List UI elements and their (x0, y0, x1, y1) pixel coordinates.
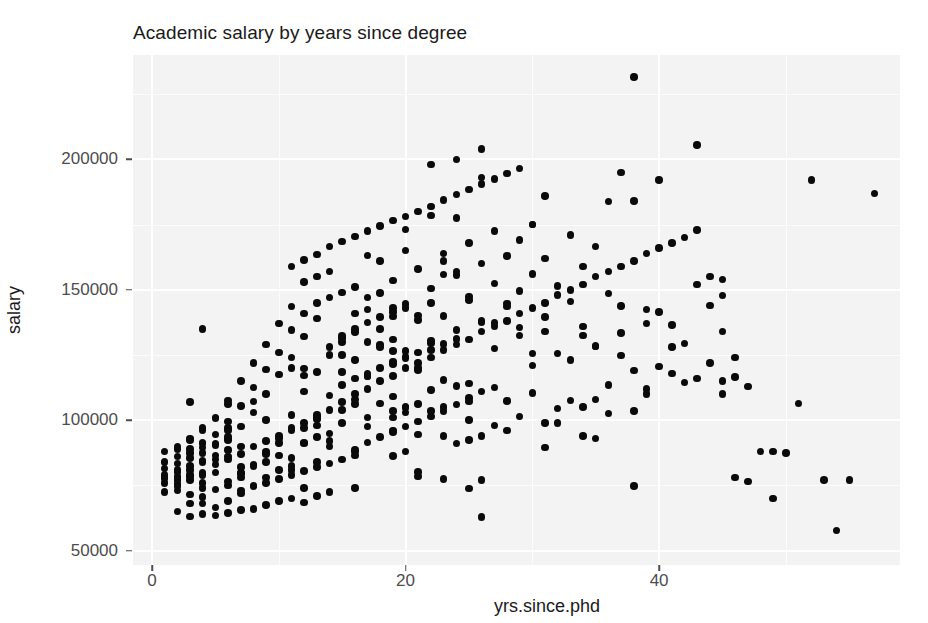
data-point (313, 433, 321, 441)
data-point (453, 214, 461, 222)
data-point (186, 491, 194, 499)
data-point (630, 482, 638, 490)
data-point (376, 313, 384, 321)
data-point (288, 471, 296, 479)
data-point (516, 332, 524, 340)
data-point (174, 460, 182, 468)
data-point (554, 405, 562, 413)
data-point (427, 413, 435, 421)
data-point (288, 462, 296, 470)
data-point (592, 342, 600, 350)
data-point (338, 406, 346, 414)
data-point (376, 364, 384, 372)
data-point (579, 332, 587, 340)
data-point (668, 321, 676, 329)
data-point (491, 345, 499, 353)
data-point (300, 467, 308, 475)
data-point (719, 292, 727, 300)
data-point (567, 356, 575, 364)
data-point (275, 475, 283, 483)
data-point (478, 513, 486, 521)
data-point (491, 227, 499, 235)
data-point (719, 328, 727, 336)
data-point (300, 372, 308, 380)
data-point (630, 197, 638, 205)
data-point (174, 443, 182, 451)
data-point (288, 354, 296, 362)
data-point (681, 340, 689, 348)
data-point (326, 488, 334, 496)
data-point (478, 432, 486, 440)
data-point (541, 299, 549, 307)
data-point (275, 452, 283, 460)
data-point (250, 443, 258, 451)
data-point (567, 397, 575, 405)
data-point (338, 368, 346, 376)
data-point (300, 333, 308, 341)
data-point (491, 280, 499, 288)
data-point (453, 156, 461, 164)
data-point (693, 141, 701, 149)
data-point (782, 449, 790, 457)
data-point (300, 499, 308, 507)
data-point (186, 398, 194, 406)
data-point (529, 362, 537, 370)
data-point (617, 329, 625, 337)
data-point (541, 328, 549, 336)
x-axis-title-text: yrs.since.phd (494, 596, 600, 616)
data-point (199, 449, 207, 457)
data-point (313, 492, 321, 500)
data-point (351, 233, 359, 241)
data-point (402, 247, 410, 255)
data-point (706, 273, 714, 281)
data-point (579, 432, 587, 440)
data-point (427, 337, 435, 345)
data-point (389, 277, 397, 285)
data-point (186, 513, 194, 521)
y-axis-title: salary (4, 286, 25, 334)
data-point (275, 497, 283, 505)
gridline-major-horizontal (133, 158, 900, 160)
data-point (643, 250, 651, 258)
data-point (338, 289, 346, 297)
data-point (351, 396, 359, 404)
data-point (529, 270, 537, 278)
data-point (338, 238, 346, 246)
data-point (262, 390, 270, 398)
data-point (719, 276, 727, 284)
data-point (744, 383, 752, 391)
data-point (262, 341, 270, 349)
data-point (313, 251, 321, 259)
data-point (414, 400, 422, 408)
data-point (326, 243, 334, 251)
data-point (554, 350, 562, 358)
data-point (389, 358, 397, 366)
data-point (174, 476, 182, 484)
gridline-major-horizontal (133, 550, 900, 552)
data-point (364, 319, 372, 327)
y-axis-tick-label: 50000 (71, 541, 118, 561)
data-point (630, 407, 638, 415)
data-point (376, 257, 384, 265)
data-point (465, 239, 473, 247)
data-point (212, 486, 220, 494)
data-point (427, 346, 435, 354)
data-point (338, 351, 346, 359)
y-axis-tick-mark (126, 159, 132, 161)
data-point (529, 221, 537, 229)
data-point (250, 505, 258, 513)
data-point (300, 419, 308, 427)
data-point (833, 527, 841, 535)
data-point (440, 432, 448, 440)
x-axis-tick-label: 0 (147, 571, 156, 591)
data-point (364, 385, 372, 393)
data-point (592, 273, 600, 281)
data-point (592, 243, 600, 251)
data-point (237, 423, 245, 431)
data-point (389, 452, 397, 460)
data-point (465, 416, 473, 424)
data-point (427, 212, 435, 220)
data-point (414, 208, 422, 216)
data-point (529, 389, 537, 397)
data-point (605, 290, 613, 298)
